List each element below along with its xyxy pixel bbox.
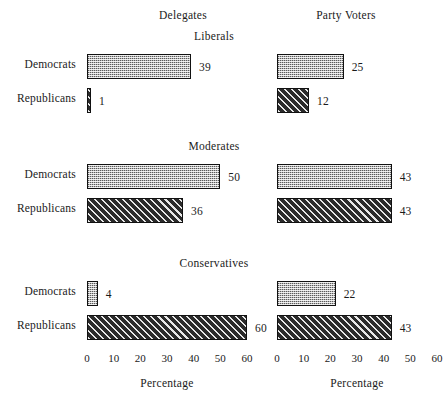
bar-value-label: 39 — [199, 61, 211, 73]
column-header-party-voters: Party Voters — [266, 9, 426, 21]
bar-republicans-party-voters — [277, 88, 309, 113]
panel-liberals: Liberals Democrats 39 25 Republicans 1 — [0, 30, 428, 125]
chart-row: Republicans 36 43 — [0, 194, 428, 228]
chart-row: Democrats 39 25 — [0, 50, 428, 84]
plot-area-delegates: 36 — [87, 198, 247, 224]
chart-row: Republicans 1 12 — [0, 84, 428, 118]
x-tick-label: 60 — [242, 352, 253, 364]
bar-democrats-party-voters — [277, 281, 336, 306]
x-tick-label: 50 — [405, 352, 416, 364]
x-axis-party-voters: 0102030405060 — [277, 352, 437, 368]
panel-rows: Democrats 39 25 Republicans 1 — [0, 50, 428, 118]
panel-title-conservatives: Conservatives — [0, 257, 428, 269]
x-tick-label: 50 — [215, 352, 226, 364]
axis-title-percentage-delegates: Percentage — [87, 377, 247, 389]
bar-value-label: 43 — [400, 322, 412, 334]
x-tick-label: 10 — [108, 352, 119, 364]
plot-area-delegates: 1 — [87, 88, 247, 114]
plot-area-delegates: 60 — [87, 315, 247, 341]
plot-area-delegates: 50 — [87, 164, 247, 190]
bar-democrats-delegates — [87, 54, 191, 79]
bar-value-label: 60 — [255, 322, 267, 334]
bar-democrats-delegates — [87, 281, 98, 306]
bar-democrats-party-voters — [277, 164, 392, 189]
axis-title-percentage-party-voters: Percentage — [277, 377, 437, 389]
panel-rows: Democrats 50 43 Republicans 36 — [0, 160, 428, 228]
bar-republicans-party-voters — [277, 198, 392, 223]
plot-area-party-voters: 12 — [277, 88, 437, 114]
bar-republicans-delegates — [87, 315, 247, 340]
plot-area-party-voters: 43 — [277, 315, 437, 341]
bar-value-label: 4 — [106, 288, 112, 300]
row-label-democrats: Democrats — [24, 285, 76, 297]
panel-rows: Democrats 4 22 Republicans 60 — [0, 277, 428, 345]
row-label-republicans: Republicans — [17, 319, 76, 331]
x-tick-label: 0 — [84, 352, 90, 364]
column-header-delegates: Delegates — [103, 9, 263, 21]
row-label-democrats: Democrats — [24, 168, 76, 180]
bar-value-label: 36 — [191, 205, 203, 217]
plot-area-party-voters: 25 — [277, 54, 437, 80]
row-label-democrats: Democrats — [24, 58, 76, 70]
x-tick-label: 30 — [352, 352, 363, 364]
x-tick-label: 60 — [432, 352, 443, 364]
bar-value-label: 50 — [228, 171, 240, 183]
chart-row: Democrats 4 22 — [0, 277, 428, 311]
x-tick-label: 0 — [274, 352, 280, 364]
panel-moderates: Moderates Democrats 50 43 Republicans 36 — [0, 140, 428, 240]
x-tick-label: 10 — [298, 352, 309, 364]
bar-value-label: 1 — [99, 95, 105, 107]
bar-value-label: 25 — [352, 61, 364, 73]
chart-row: Democrats 50 43 — [0, 160, 428, 194]
bar-republicans-delegates — [87, 88, 91, 113]
bar-value-label: 43 — [400, 171, 412, 183]
plot-area-delegates: 4 — [87, 281, 247, 307]
plot-area-party-voters: 43 — [277, 198, 437, 224]
panel-title-liberals: Liberals — [0, 30, 428, 42]
row-label-republicans: Republicans — [17, 202, 76, 214]
x-tick-label: 30 — [162, 352, 173, 364]
plot-area-party-voters: 43 — [277, 164, 437, 190]
x-axis-delegates: 0102030405060 — [87, 352, 247, 368]
bar-republicans-party-voters — [277, 315, 392, 340]
x-tick-label: 20 — [135, 352, 146, 364]
bar-democrats-party-voters — [277, 54, 344, 79]
plot-area-party-voters: 22 — [277, 281, 437, 307]
bar-republicans-delegates — [87, 198, 183, 223]
row-label-republicans: Republicans — [17, 92, 76, 104]
x-tick-label: 40 — [188, 352, 199, 364]
bar-democrats-delegates — [87, 164, 220, 189]
panel-conservatives: Conservatives Democrats 4 22 Republicans… — [0, 257, 428, 352]
x-tick-label: 20 — [325, 352, 336, 364]
plot-area-delegates: 39 — [87, 54, 247, 80]
chart-row: Republicans 60 43 — [0, 311, 428, 345]
bar-value-label: 43 — [400, 205, 412, 217]
bar-value-label: 22 — [344, 288, 356, 300]
bar-value-label: 12 — [317, 95, 329, 107]
panel-title-moderates: Moderates — [0, 140, 428, 152]
x-tick-label: 40 — [378, 352, 389, 364]
